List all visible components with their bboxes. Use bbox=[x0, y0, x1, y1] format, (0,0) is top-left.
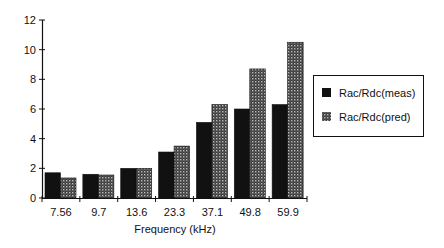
bar-pred bbox=[174, 146, 190, 198]
legend-label-pred: Rac/Rdc(pred) bbox=[339, 111, 411, 123]
bar-pred bbox=[212, 105, 228, 198]
legend-box bbox=[314, 76, 424, 137]
legend: Rac/Rdc(meas) Rac/Rdc(pred) bbox=[314, 76, 424, 137]
x-tick-label: 49.8 bbox=[240, 206, 261, 218]
y-tick-label: 4 bbox=[30, 133, 36, 145]
x-tick-label: 7.56 bbox=[50, 206, 71, 218]
x-axis: 7.569.713.623.337.149.859.9 bbox=[42, 196, 307, 218]
bar-pred bbox=[250, 69, 265, 198]
x-tick-label: 23.3 bbox=[164, 206, 185, 218]
legend-swatch-meas bbox=[322, 88, 331, 97]
y-tick-label: 2 bbox=[30, 162, 36, 174]
bars bbox=[45, 42, 303, 198]
legend-label-meas: Rac/Rdc(meas) bbox=[339, 87, 415, 99]
x-tick-label: 37.1 bbox=[202, 206, 223, 218]
bar-pred bbox=[61, 178, 77, 198]
bar-pred bbox=[288, 42, 304, 198]
bar-meas bbox=[272, 105, 288, 198]
x-tick-label: 13.6 bbox=[126, 206, 147, 218]
bar-pred bbox=[136, 168, 152, 198]
y-tick-label: 6 bbox=[30, 103, 36, 115]
bar-meas bbox=[121, 168, 137, 198]
x-tick-label: 9.7 bbox=[91, 206, 106, 218]
y-tick-label: 10 bbox=[24, 44, 36, 56]
y-tick-label: 0 bbox=[30, 192, 36, 204]
bar-pred bbox=[98, 175, 114, 198]
legend-swatch-pred bbox=[322, 112, 331, 121]
bar-meas bbox=[159, 152, 175, 198]
x-tick-label: 59.9 bbox=[277, 206, 298, 218]
bar-meas bbox=[45, 173, 61, 198]
y-axis: 024681012 bbox=[24, 14, 45, 204]
y-tick-label: 12 bbox=[24, 14, 36, 26]
bar-meas bbox=[196, 122, 212, 198]
y-tick-label: 8 bbox=[30, 73, 36, 85]
bar-meas bbox=[234, 109, 250, 198]
bar-meas bbox=[83, 174, 99, 198]
x-axis-title: Frequency (kHz) bbox=[134, 223, 215, 235]
bar-chart: 024681012 7.569.713.623.337.149.859.9 Fr… bbox=[0, 0, 444, 248]
